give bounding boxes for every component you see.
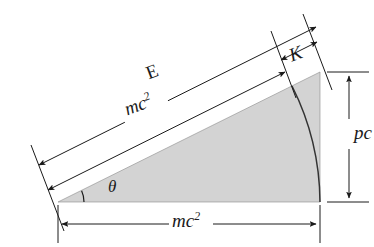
apex-extension-line [31, 145, 64, 231]
label-momentum: pc [354, 123, 372, 142]
label-angle-theta: θ [108, 178, 116, 195]
figure-root: E mc2 K pc mc2 θ [0, 0, 374, 247]
exponent: 2 [194, 210, 200, 223]
label-rest-energy-base: mc2 [172, 211, 200, 230]
